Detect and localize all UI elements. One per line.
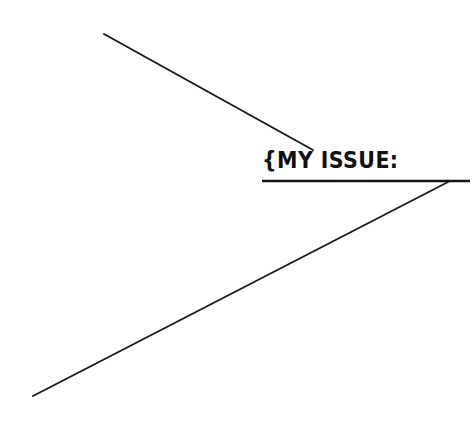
sketch-canvas: {MY ISSUE: [0, 0, 475, 437]
upper-diagonal-stroke [104, 34, 313, 150]
sketch-strokes-layer [0, 0, 475, 437]
lower-diagonal-stroke [33, 182, 448, 396]
